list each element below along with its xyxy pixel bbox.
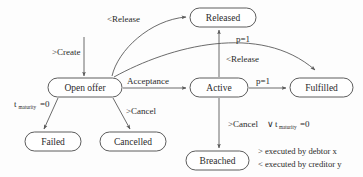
node-open-offer[interactable]: Open offer [48,78,122,97]
edge-label-maturity-failed: t maturity =0 [14,99,50,110]
breach-or-operator: ∨ [267,119,274,129]
edge-open-offer-to-released [112,17,186,76]
node-released-label: Released [206,13,241,23]
legend: > executed by debtor x < executed by cre… [258,146,342,169]
state-diagram-canvas: Open offer Released Active Fulfilled Fai… [0,0,363,177]
edge-label-acceptance: Acceptance [127,76,169,86]
edge-label-release-active: <Release [226,54,259,64]
legend-line-creditor: < executed by creditor y [258,159,342,169]
maturity-sub-failed: maturity [19,104,37,110]
edge-label-p-equals-one-mid: p=1 [256,76,270,86]
node-breached[interactable]: Breached [186,151,249,170]
node-fulfilled[interactable]: Fulfilled [290,78,353,97]
node-cancelled-label: Cancelled [114,137,152,147]
node-cancelled[interactable]: Cancelled [100,132,166,151]
edge-label-breach-condition: >Cancel ∨ t maturity =0 [228,119,310,130]
maturity-var-breach: t [275,119,278,129]
edge-label-p-equals-one-top: p=1 [236,34,250,44]
edge-open-offer-to-fulfilled [114,43,315,77]
node-open-offer-label: Open offer [64,83,106,93]
node-released[interactable]: Released [190,8,256,27]
maturity-var-failed: t [14,99,17,109]
node-failed[interactable]: Failed [25,132,81,151]
edge-label-create: >Create [52,47,81,57]
maturity-sub-breach: maturity [279,124,297,130]
edge-label-release-offer: <Release [107,14,140,24]
legend-line-debtor: > executed by debtor x [258,146,338,156]
node-active[interactable]: Active [190,78,248,97]
maturity-eq-breach: =0 [300,119,310,129]
node-fulfilled-label: Fulfilled [305,83,338,93]
breach-prefix: >Cancel [228,119,259,129]
node-breached-label: Breached [200,156,236,166]
node-active-label: Active [206,83,231,93]
maturity-eq-failed: =0 [40,99,50,109]
node-failed-label: Failed [41,137,65,147]
state-diagram-svg: Open offer Released Active Fulfilled Fai… [0,0,363,177]
edge-label-cancel-offer: >Cancel [126,106,157,116]
